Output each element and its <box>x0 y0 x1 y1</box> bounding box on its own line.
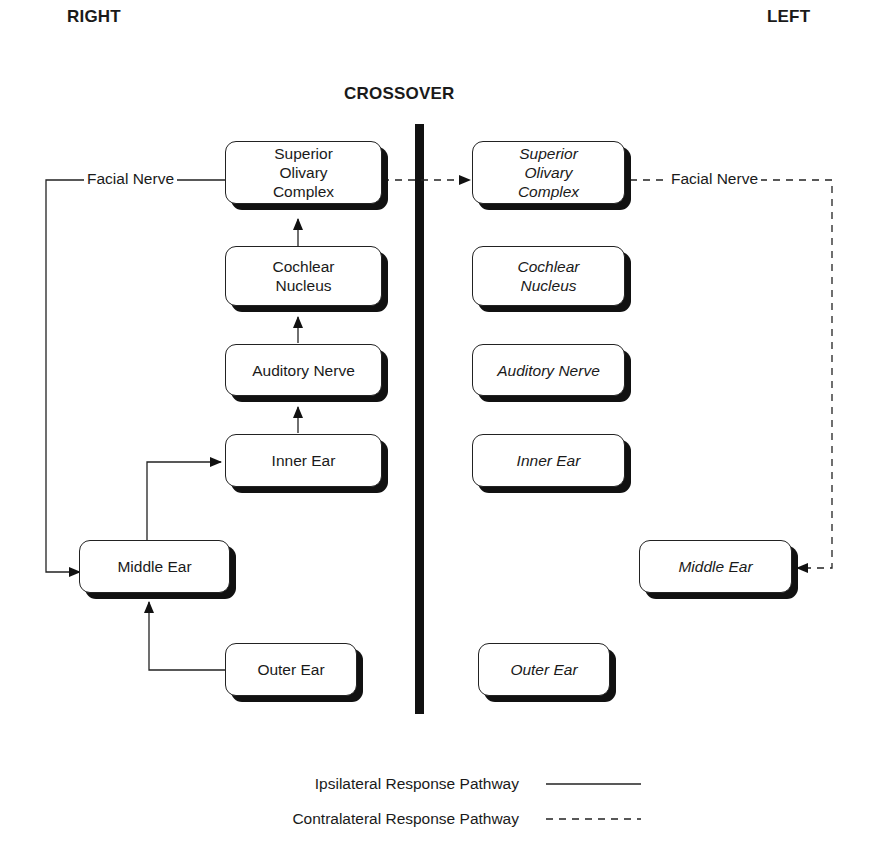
box-label: Middle Ear <box>678 557 752 576</box>
box-label: Superior Olivary Complex <box>259 144 349 201</box>
right-superior-olivary-complex-box: Superior Olivary Complex <box>225 141 382 204</box>
left-middle-ear-box: Middle Ear <box>639 540 792 593</box>
box-label: Cochlear Nucleus <box>259 257 349 295</box>
left-inner-ear-box: Inner Ear <box>472 434 625 487</box>
right-inner-ear-box: Inner Ear <box>225 434 382 487</box>
facial-nerve-label-right: Facial Nerve <box>84 170 177 188</box>
box-label: Auditory Nerve <box>497 361 600 380</box>
box-label: Cochlear Nucleus <box>504 257 594 295</box>
left-superior-olivary-complex-box: Superior Olivary Complex <box>472 141 625 204</box>
box-label: Middle Ear <box>117 557 191 576</box>
left-outer-ear-box: Outer Ear <box>478 643 610 696</box>
connector-layer <box>0 0 876 867</box>
box-label: Inner Ear <box>517 451 581 470</box>
right-auditory-nerve-box: Auditory Nerve <box>225 344 382 396</box>
crossover-bar <box>415 124 424 714</box>
right-middle-ear-box: Middle Ear <box>79 540 230 593</box>
left-auditory-nerve-box: Auditory Nerve <box>472 344 625 396</box>
left-cochlear-nucleus-box: Cochlear Nucleus <box>472 246 625 306</box>
facial-nerve-label-left: Facial Nerve <box>668 170 761 188</box>
right-outer-ear-box: Outer Ear <box>225 643 357 696</box>
box-label: Inner Ear <box>272 451 336 470</box>
legend-ipsilateral-label: Ipsilateral Response Pathway <box>315 775 519 793</box>
box-label: Outer Ear <box>510 660 577 679</box>
right-cochlear-nucleus-box: Cochlear Nucleus <box>225 246 382 306</box>
box-label: Superior Olivary Complex <box>504 144 594 201</box>
box-label: Outer Ear <box>257 660 324 679</box>
legend-contralateral-label: Contralateral Response Pathway <box>292 810 519 828</box>
box-label: Auditory Nerve <box>252 361 355 380</box>
